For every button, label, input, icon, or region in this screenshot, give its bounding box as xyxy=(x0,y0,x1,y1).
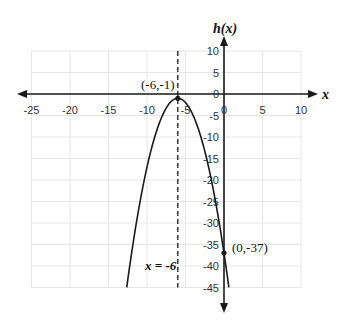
x-tick-label: -20 xyxy=(62,104,78,116)
axis-of-symmetry-label: x = -6 xyxy=(144,258,177,273)
y-axis-title: h(x) xyxy=(213,21,237,37)
x-axis-right-arrow-icon xyxy=(308,90,318,98)
y-tick-label: -35 xyxy=(203,239,219,251)
y-tick-label: -40 xyxy=(203,260,219,272)
x-tick-label: 10 xyxy=(295,104,307,116)
y-tick-label: -10 xyxy=(203,131,219,143)
y-tick-label: -45 xyxy=(203,282,219,294)
y-tick-label: -30 xyxy=(203,217,219,229)
x-tick-label: 0 xyxy=(221,104,227,116)
x-axis-left-arrow-icon xyxy=(17,90,27,98)
y-tick-label: -5 xyxy=(209,110,219,122)
y-axis-up-arrow-icon xyxy=(220,36,228,46)
y-intercept-label: (0,-37) xyxy=(232,240,268,255)
parabola-chart: -25-20-15-10-505101050-5-10-15-20-25-30-… xyxy=(0,0,342,331)
y-tick-label: 10 xyxy=(207,45,219,57)
x-tick-label: -10 xyxy=(139,104,155,116)
vertex-label: (-6,-1) xyxy=(141,77,175,92)
x-tick-label: -25 xyxy=(24,104,40,116)
vertex-point xyxy=(175,96,180,101)
y-tick-label: 5 xyxy=(213,67,219,79)
x-tick-label: 5 xyxy=(259,104,265,116)
x-tick-label: -15 xyxy=(101,104,117,116)
x-tick-label: -5 xyxy=(181,104,191,116)
y-intercept-point xyxy=(221,251,226,256)
y-axis-down-arrow-icon xyxy=(220,303,228,313)
y-tick-label: 0 xyxy=(213,88,219,100)
x-axis-title: x xyxy=(321,87,329,102)
